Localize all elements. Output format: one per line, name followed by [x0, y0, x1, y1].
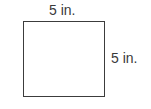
top-side-dimension-label: 5 in.	[49, 2, 75, 18]
geometry-diagram: 5 in. 5 in.	[0, 0, 151, 109]
square-shape	[23, 21, 105, 97]
right-side-dimension-label: 5 in.	[111, 50, 137, 66]
